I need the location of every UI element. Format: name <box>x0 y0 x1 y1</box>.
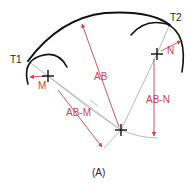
line-ab-m-short <box>90 100 98 106</box>
dimension-lines <box>30 24 181 147</box>
center-marks <box>42 48 163 136</box>
label-m: M <box>38 80 46 91</box>
line-n-to-center <box>121 54 157 130</box>
label-ab-m: AB-M <box>66 107 91 118</box>
arc-m <box>27 54 68 84</box>
label-t1: T1 <box>10 54 22 65</box>
line-center-to-ab-m-end <box>104 130 121 148</box>
line-t1-to-m-center <box>28 61 48 76</box>
figure-caption: (A) <box>92 167 105 178</box>
label-ab-n: AB-N <box>146 94 170 105</box>
tangent-arc-construction-diagram: T1 T2 M N AB AB-M AB-N (A) <box>0 0 196 188</box>
construction-lines <box>28 26 169 148</box>
label-t2: T2 <box>170 12 182 23</box>
arc-n <box>131 22 183 72</box>
arc-ab-m-construction <box>48 76 158 138</box>
dim-ab-m <box>58 90 102 147</box>
labels: T1 T2 M N AB AB-M AB-N (A) <box>10 12 182 178</box>
center-n-cross-icon <box>151 48 163 60</box>
label-ab: AB <box>94 71 108 82</box>
label-n: N <box>167 45 174 56</box>
